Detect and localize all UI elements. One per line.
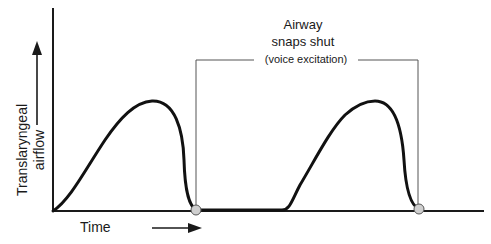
annotation-line2: snaps shut bbox=[272, 34, 335, 49]
y-axis-label-line2: airflow bbox=[31, 129, 47, 170]
closure-marker-2 bbox=[414, 204, 424, 214]
annotation-line3: (voice excitation) bbox=[265, 53, 348, 65]
closure-marker-1 bbox=[191, 205, 201, 215]
airflow-curve bbox=[53, 101, 419, 211]
annotation-bracket bbox=[196, 60, 418, 210]
x-arrow-icon bbox=[152, 223, 202, 233]
y-arrow-icon bbox=[32, 41, 42, 125]
annotation-line1: Airway bbox=[283, 17, 323, 32]
y-axis-label-line1: Translaryngeal bbox=[14, 104, 30, 196]
x-axis-label: Time bbox=[80, 219, 111, 235]
airflow-diagram: Translaryngeal airflow Time Airway snaps… bbox=[0, 0, 491, 244]
